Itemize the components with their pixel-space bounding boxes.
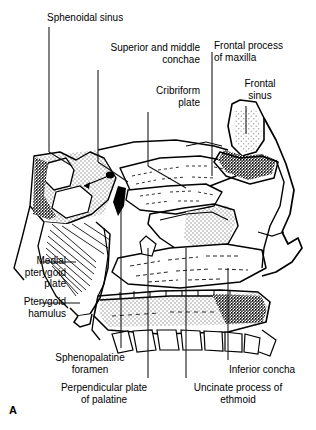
- label-sphenopalatine-foramen: Sphenopalatine foramen: [38, 352, 142, 375]
- label-sphenoidal-sinus: Sphenoidal sinus: [47, 12, 167, 24]
- label-perpendicular-plate-palatine: Perpendicular plate of palatine: [42, 382, 166, 405]
- figure-letter: A: [9, 404, 17, 416]
- label-uncinate-process-ethmoid: Uncinate process of ethmoid: [176, 382, 300, 405]
- label-frontal-process-maxilla: Frontal process of maxilla: [214, 40, 314, 63]
- label-medial-pterygoid-plate: Medial pterygoid plate: [0, 255, 66, 290]
- label-inferior-concha: Inferior concha: [214, 364, 310, 376]
- label-cribriform-plate: Cribriform plate: [96, 85, 200, 108]
- label-frontal-sinus: Frontal sinus: [224, 78, 296, 101]
- label-pterygoid-hamulus: Pterygoid hamulus: [0, 296, 66, 319]
- label-superior-middle-conchae: Superior and middle conchae: [80, 42, 200, 65]
